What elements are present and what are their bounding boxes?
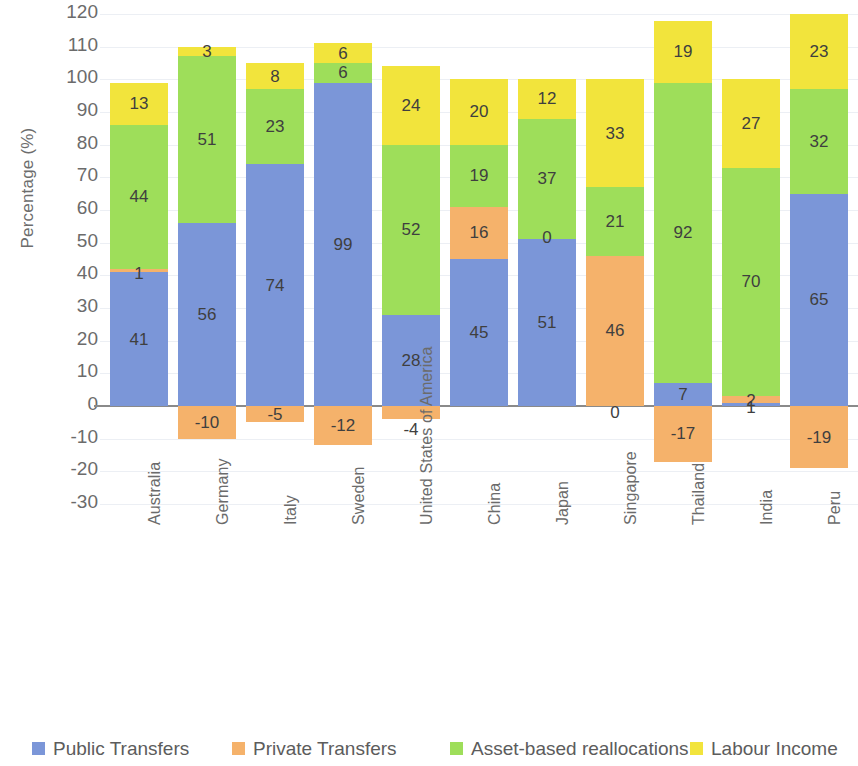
- bar-value-label: 44: [130, 188, 149, 205]
- bar-value-label: 21: [606, 213, 625, 230]
- bar-group[interactable]: 0462133: [586, 0, 644, 512]
- legend-item[interactable]: Private Transfers: [232, 739, 397, 758]
- y-axis-tick-label: 60: [28, 197, 98, 219]
- bar-group[interactable]: 74-5238: [246, 0, 304, 512]
- bar-segment[interactable]: 16: [450, 207, 508, 259]
- bar-value-label: 70: [742, 273, 761, 290]
- bar-segment[interactable]: 27: [722, 79, 780, 167]
- legend-label: Labour Income: [711, 739, 838, 758]
- y-axis-tick-label: -10: [28, 426, 98, 448]
- y-axis-tick-label: 100: [28, 66, 98, 88]
- bar-segment[interactable]: 92: [654, 83, 712, 384]
- y-axis-tick-label: 40: [28, 262, 98, 284]
- bar-segment[interactable]: 45: [450, 259, 508, 406]
- bar-value-label: 92: [674, 224, 693, 241]
- bar-segment[interactable]: 74: [246, 164, 304, 406]
- bar-segment[interactable]: 99: [314, 83, 372, 406]
- y-axis-tick-label: 0: [28, 393, 98, 415]
- bar-segment[interactable]: 19: [654, 21, 712, 83]
- bar-segment[interactable]: 56: [178, 223, 236, 406]
- bar-segment[interactable]: 70: [722, 168, 780, 397]
- bar-segment[interactable]: -17: [654, 406, 712, 462]
- y-axis-tick-label: 110: [28, 34, 98, 56]
- bar-segment[interactable]: -12: [314, 406, 372, 445]
- bar-value-label: -12: [331, 417, 356, 434]
- legend-item[interactable]: Asset-based reallocations: [450, 739, 689, 758]
- bar-value-label: 19: [674, 43, 693, 60]
- bar-segment[interactable]: 19: [450, 145, 508, 207]
- bar-value-label: 19: [470, 167, 489, 184]
- y-axis-tick-label: 50: [28, 230, 98, 252]
- bar-group[interactable]: 28-45224: [382, 0, 440, 512]
- legend-label: Public Transfers: [53, 739, 189, 758]
- bar-segment[interactable]: 3: [178, 47, 236, 57]
- bar-segment[interactable]: 13: [110, 83, 168, 125]
- bar-group[interactable]: 45161920: [450, 0, 508, 512]
- bar-segment[interactable]: 7: [654, 383, 712, 406]
- bar-segment[interactable]: 51: [178, 56, 236, 223]
- bar-group[interactable]: 7-179219: [654, 0, 712, 512]
- y-axis-tick-label: -20: [28, 458, 98, 480]
- bar-segment[interactable]: 6: [314, 63, 372, 83]
- bar-value-label: 3: [178, 43, 236, 60]
- bar-segment[interactable]: 23: [790, 14, 848, 89]
- plot-area: 1201101009080706050403020100-10-20-30411…: [100, 0, 858, 512]
- bar-value-label: 13: [130, 95, 149, 112]
- legend-item[interactable]: Labour Income: [690, 739, 838, 758]
- bar-value-label: 51: [538, 314, 557, 331]
- bar-segment[interactable]: 12: [518, 79, 576, 118]
- bar-group[interactable]: 99-1266: [314, 0, 372, 512]
- bar-group[interactable]: 127027: [722, 0, 780, 512]
- bar-value-label: 33: [606, 125, 625, 142]
- legend-label: Asset-based reallocations: [471, 739, 689, 758]
- bar-value-label: 20: [470, 103, 489, 120]
- bar-value-label: 32: [810, 133, 829, 150]
- bar-value-label: 65: [810, 291, 829, 308]
- x-axis-category-label: Italy: [282, 495, 300, 525]
- bar-segment[interactable]: 65: [790, 194, 848, 406]
- bar-value-label: -17: [671, 425, 696, 442]
- bar-segment[interactable]: 2: [722, 396, 780, 403]
- y-axis-tick-label: 10: [28, 360, 98, 382]
- y-axis-tick-label: -30: [28, 491, 98, 513]
- bar-value-label: 12: [538, 90, 557, 107]
- bar-segment[interactable]: 37: [518, 119, 576, 240]
- bar-segment[interactable]: 51: [518, 239, 576, 406]
- bar-group[interactable]: 65-193223: [790, 0, 848, 512]
- bar-segment[interactable]: 41: [110, 272, 168, 406]
- bar-value-label: 52: [402, 221, 421, 238]
- bar-segment[interactable]: 24: [382, 66, 440, 144]
- bar-value-label: 2: [722, 392, 780, 409]
- bar-segment[interactable]: 21: [586, 187, 644, 256]
- bar-value-label: 41: [130, 331, 149, 348]
- bar-value-label: 23: [266, 118, 285, 135]
- bar-segment[interactable]: -5: [246, 406, 304, 422]
- x-axis-category-label: Germany: [214, 459, 232, 526]
- bar-value-label: 23: [810, 43, 829, 60]
- bar-group[interactable]: 4114413: [110, 0, 168, 512]
- bar-value-label: 74: [266, 277, 285, 294]
- bar-segment[interactable]: 52: [382, 145, 440, 315]
- bar-segment[interactable]: 20: [450, 79, 508, 144]
- bar-group[interactable]: 56-10513: [178, 0, 236, 512]
- bar-value-label: 0: [518, 229, 576, 246]
- bar-segment[interactable]: -19: [790, 406, 848, 468]
- y-axis-tick-label: 80: [28, 132, 98, 154]
- bar-value-label: 1: [110, 265, 168, 282]
- bar-segment[interactable]: 6: [314, 43, 372, 63]
- bar-value-label: 27: [742, 115, 761, 132]
- x-axis-category-label: India: [758, 490, 776, 525]
- bar-segment[interactable]: 1: [110, 269, 168, 272]
- bar-segment[interactable]: 8: [246, 63, 304, 89]
- bar-segment[interactable]: 46: [586, 256, 644, 406]
- bar-segment[interactable]: 32: [790, 89, 848, 194]
- x-axis-category-label: Australia: [146, 462, 164, 525]
- bar-segment[interactable]: -10: [178, 406, 236, 439]
- bar-segment[interactable]: 44: [110, 125, 168, 269]
- legend-swatch-icon: [450, 742, 463, 755]
- bar-segment[interactable]: 33: [586, 79, 644, 187]
- bar-group[interactable]: 5103712: [518, 0, 576, 512]
- bar-segment[interactable]: 23: [246, 89, 304, 164]
- bar-value-label: 6: [338, 45, 347, 62]
- legend-item[interactable]: Public Transfers: [32, 739, 189, 758]
